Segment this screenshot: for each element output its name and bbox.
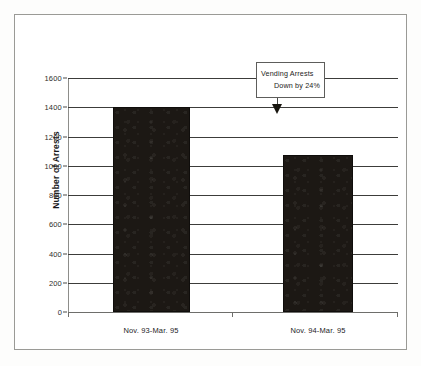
- y-tick-mark: [63, 195, 67, 196]
- y-tick-label: 0: [22, 308, 62, 317]
- x-tick-mark-right: [397, 312, 398, 317]
- y-tick-label: 200: [22, 278, 62, 287]
- x-axis: Nov. 93-Mar. 95 Nov. 94-Mar. 95: [68, 312, 398, 342]
- y-tick-label: 1200: [22, 132, 62, 141]
- y-tick-mark: [63, 312, 67, 313]
- plot-area: [68, 78, 398, 312]
- y-tick-label: 1000: [22, 161, 62, 170]
- y-tick-label: 400: [22, 249, 62, 258]
- callout-line-1: Vending Arrests: [260, 68, 314, 80]
- callout-arrow-down-icon: [272, 104, 282, 114]
- y-tick-label: 1400: [22, 103, 62, 112]
- y-tick-mark: [63, 107, 67, 108]
- x-category-label-2: Nov. 94-Mar. 95: [248, 326, 388, 335]
- vending-arrests-callout[interactable]: Vending Arrests Down by 24%: [256, 62, 325, 98]
- gridline-1600: [68, 78, 398, 79]
- bar-nov94-mar95[interactable]: [283, 155, 353, 312]
- y-tick-mark: [63, 282, 67, 283]
- chart-frame-border: Number of Arrests 1600 1400 1200 1000 80…: [14, 14, 407, 350]
- y-tick-mark: [63, 136, 67, 137]
- y-tick-mark: [63, 253, 67, 254]
- bar-nov93-mar95[interactable]: [113, 107, 190, 312]
- y-tick-label: 600: [22, 220, 62, 229]
- y-axis-tick-labels: 1600 1400 1200 1000 800 600 400 200 0: [22, 78, 62, 312]
- callout-line-2: Down by 24%: [274, 80, 320, 92]
- x-tick-mark-center: [232, 312, 233, 317]
- x-category-label-1: Nov. 93-Mar. 95: [81, 326, 221, 335]
- y-tick-mark: [63, 224, 67, 225]
- y-tick-mark: [63, 78, 67, 79]
- y-tick-mark: [63, 165, 67, 166]
- y-tick-label: 1600: [22, 74, 62, 83]
- x-tick-mark-left: [68, 312, 69, 317]
- chart-page: Number of Arrests 1600 1400 1200 1000 80…: [0, 0, 421, 366]
- y-tick-label: 800: [22, 191, 62, 200]
